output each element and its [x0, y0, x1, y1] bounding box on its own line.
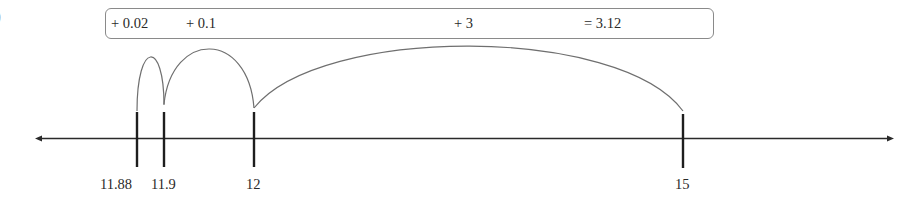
tick-label-11.9: 11.9	[151, 176, 176, 192]
jump-arc-0.02	[137, 57, 164, 111]
tick-label-12: 12	[246, 176, 261, 192]
tick-label-15: 15	[675, 176, 690, 192]
left-arrow-icon	[35, 136, 42, 142]
jump-arc-0.1	[164, 49, 254, 108]
right-arrow-icon	[887, 136, 894, 142]
jump-arc-3	[254, 46, 683, 111]
tick-label-11.88: 11.88	[100, 176, 132, 192]
number-line-diagram	[0, 0, 917, 205]
